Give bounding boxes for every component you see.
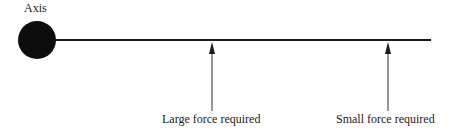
large-force-label: Large force required bbox=[162, 112, 260, 127]
lever-diagram: Axis Large force required Small force re… bbox=[0, 0, 457, 134]
large-force-arrowhead bbox=[209, 42, 215, 54]
axis-label: Axis bbox=[24, 1, 47, 16]
small-force-arrowhead bbox=[385, 42, 391, 54]
small-force-label: Small force required bbox=[336, 112, 435, 127]
pivot-axis-circle bbox=[18, 21, 56, 59]
